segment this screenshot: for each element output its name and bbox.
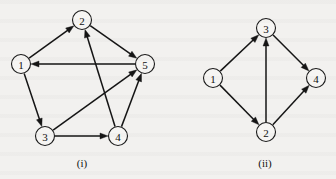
node-2[interactable]: 2 <box>257 123 276 142</box>
arrowhead-icon <box>66 26 74 33</box>
arrowhead-icon <box>84 30 90 39</box>
edge-4-to-5 <box>122 73 142 126</box>
edge-4-to-2 <box>84 30 115 127</box>
node-3[interactable]: 3 <box>257 19 276 38</box>
node-label: 2 <box>79 15 85 27</box>
arrowhead-icon <box>129 70 137 77</box>
edge-2-to-5 <box>90 26 137 59</box>
node-1[interactable]: 1 <box>12 55 31 74</box>
node-label: 2 <box>263 127 269 139</box>
arrowhead-icon <box>263 38 269 46</box>
arrowhead-icon <box>129 51 137 58</box>
arrowhead-icon <box>100 133 108 139</box>
node-4[interactable]: 4 <box>307 69 326 88</box>
edge-5-to-1 <box>31 61 135 67</box>
edge-3-to-4 <box>273 35 309 71</box>
edge-3-to-4 <box>55 133 108 139</box>
edge-1-to-2 <box>29 26 74 58</box>
edge-2-to-4 <box>273 85 309 124</box>
node-label: 3 <box>42 131 48 143</box>
node-3[interactable]: 3 <box>36 127 55 146</box>
arrowhead-icon <box>136 73 142 82</box>
figure-root: 123451324 (i)(ii) <box>0 0 336 179</box>
graph-caption-graph-ii: (ii) <box>258 157 272 170</box>
node-4[interactable]: 4 <box>109 127 128 146</box>
arrowhead-icon <box>31 61 39 67</box>
node-label: 4 <box>115 131 121 143</box>
edge-2-to-3 <box>263 38 269 122</box>
node-label: 1 <box>210 73 216 85</box>
node-1[interactable]: 1 <box>204 69 223 88</box>
node-label: 4 <box>313 73 319 85</box>
edge-1-to-3 <box>24 73 42 126</box>
node-label: 5 <box>142 59 148 71</box>
node-label: 3 <box>263 23 269 35</box>
node-2[interactable]: 2 <box>73 11 92 30</box>
edge-1-to-3 <box>220 35 258 71</box>
graph-canvas: 123451324 (i)(ii) <box>0 0 336 179</box>
edge-1-to-2 <box>220 85 259 125</box>
graph-caption-graph-i: (i) <box>77 157 88 170</box>
nodes-layer: 123451324 <box>12 11 326 146</box>
node-label: 1 <box>18 59 24 71</box>
arrowhead-icon <box>36 118 42 127</box>
node-5[interactable]: 5 <box>136 55 155 74</box>
captions-layer: (i)(ii) <box>77 157 272 170</box>
